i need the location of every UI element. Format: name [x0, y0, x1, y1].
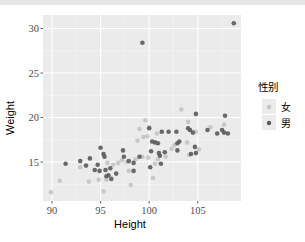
point-male — [191, 130, 196, 135]
point-female — [116, 161, 121, 166]
x-tick-label: 95 — [95, 205, 106, 216]
x-tick-label: 105 — [190, 205, 206, 216]
point-male — [163, 150, 168, 155]
point-male — [137, 154, 142, 159]
y-tick-label: 20 — [29, 112, 40, 123]
legend-key-female-icon — [267, 105, 271, 109]
point-male — [147, 126, 152, 131]
x-axis-ticks: 9095100105 — [47, 201, 206, 216]
chart-canvas: 9095100105 15202530 Height Weight 性别 女 男 — [0, 0, 305, 242]
point-female — [146, 155, 151, 160]
point-male — [223, 113, 228, 118]
point-female — [49, 190, 54, 195]
point-female — [179, 107, 184, 112]
legend-label-female: 女 — [281, 101, 291, 113]
point-male — [166, 129, 171, 134]
point-female — [135, 138, 140, 143]
point-female — [153, 162, 158, 167]
y-axis-ticks: 15202530 — [29, 23, 44, 168]
point-female — [128, 183, 133, 188]
legend-title: 性别 — [258, 81, 278, 93]
point-female — [137, 127, 142, 132]
point-female — [96, 178, 101, 183]
y-tick-label: 15 — [29, 157, 40, 168]
point-male — [108, 166, 113, 171]
point-male — [174, 129, 179, 134]
point-male — [122, 154, 127, 159]
y-tick-label: 25 — [29, 68, 40, 79]
point-male — [232, 21, 237, 26]
point-male — [127, 159, 132, 164]
y-axis-title: Weight — [4, 101, 16, 135]
point-female — [101, 189, 106, 194]
point-male — [149, 149, 154, 154]
point-male — [159, 162, 164, 167]
point-male — [97, 169, 102, 174]
point-female — [185, 140, 190, 145]
x-tick-label: 100 — [141, 205, 157, 216]
point-male — [177, 139, 182, 144]
scatter-chart: 9095100105 15202530 Height Weight 性别 女 男 — [0, 0, 305, 242]
point-female — [163, 154, 168, 159]
point-male — [215, 131, 220, 136]
point-male — [131, 169, 136, 174]
point-male — [175, 148, 180, 153]
point-male — [189, 152, 194, 157]
point-female — [58, 178, 63, 183]
x-axis-title: Height — [114, 218, 146, 230]
point-female — [127, 169, 132, 174]
x-tick-label: 90 — [47, 205, 58, 216]
point-male — [194, 112, 199, 117]
point-male — [160, 129, 165, 134]
point-male — [205, 128, 210, 133]
point-male — [103, 168, 108, 173]
point-female — [87, 179, 92, 184]
point-male — [156, 141, 161, 146]
point-male — [114, 171, 119, 176]
point-female — [141, 135, 146, 140]
point-male — [109, 177, 114, 182]
point-male — [78, 159, 83, 164]
point-male — [106, 173, 111, 178]
point-male — [140, 40, 145, 45]
point-male — [226, 131, 231, 136]
legend-key-male-icon — [267, 121, 271, 125]
point-male — [95, 162, 100, 167]
point-female — [222, 122, 227, 127]
point-male — [194, 151, 199, 156]
point-female — [197, 147, 202, 152]
point-male — [158, 154, 163, 159]
point-male — [193, 145, 198, 150]
legend: 性别 女 男 — [258, 81, 291, 130]
point-male — [102, 154, 107, 159]
legend-label-male: 男 — [281, 118, 291, 129]
point-male — [121, 148, 126, 153]
point-female — [143, 118, 148, 123]
point-female — [105, 161, 110, 166]
point-female — [169, 146, 174, 151]
point-female — [155, 131, 160, 136]
point-male — [84, 163, 89, 168]
point-male — [93, 168, 98, 173]
point-female — [186, 120, 191, 125]
point-male — [88, 156, 93, 161]
point-male — [63, 162, 68, 167]
point-male — [222, 130, 227, 135]
point-male — [98, 146, 103, 151]
y-tick-label: 30 — [29, 23, 40, 34]
point-male — [131, 161, 136, 166]
point-female — [151, 176, 156, 181]
point-male — [148, 165, 153, 170]
point-female — [145, 134, 150, 139]
point-female — [78, 165, 83, 170]
